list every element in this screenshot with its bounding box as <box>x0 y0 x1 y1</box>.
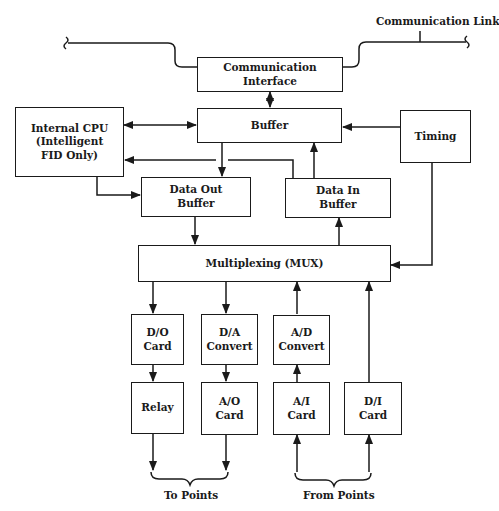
di-card-box: D/I Card <box>344 382 402 435</box>
data-out-buffer-box: Data Out Buffer <box>141 177 251 217</box>
communication-link-label: Communication Link <box>376 15 499 27</box>
comm-link-left <box>68 43 197 67</box>
buffer-box: Buffer <box>197 108 342 143</box>
from-points-label: From Points <box>303 489 375 501</box>
comm-link-right <box>342 42 466 67</box>
ao-card-box: A/O Card <box>201 382 258 435</box>
da-convert-box: D/A Convert <box>201 314 258 365</box>
communication-interface-box: Communication Interface <box>197 57 343 92</box>
multiplexing-box: Multiplexing (MUX) <box>138 245 391 282</box>
from-points-brace <box>295 473 371 486</box>
to-points-label: To Points <box>164 489 218 501</box>
internal-cpu-box: Internal CPU (Intelligent FID Only) <box>15 107 124 177</box>
timing-box: Timing <box>400 110 471 163</box>
to-points-brace <box>151 472 228 485</box>
relay-box: Relay <box>131 382 184 434</box>
ai-card-box: A/I Card <box>273 382 330 435</box>
data-in-buffer-box: Data In Buffer <box>285 178 391 218</box>
ad-convert-box: A/D Convert <box>273 315 330 365</box>
do-card-box: D/O Card <box>131 314 184 365</box>
